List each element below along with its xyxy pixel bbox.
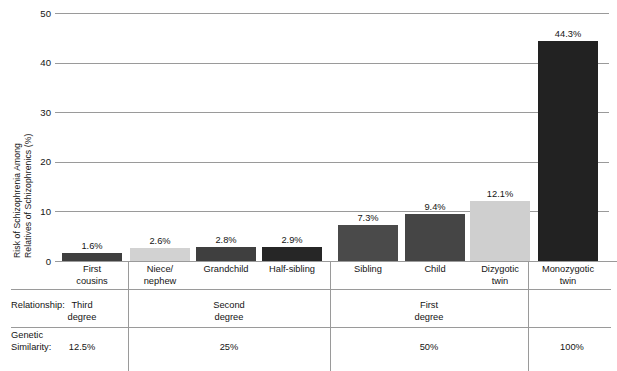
bar: 2.8%	[196, 247, 256, 261]
bar: 44.3%	[538, 41, 598, 261]
bar-value-label: 9.4%	[424, 202, 445, 212]
y-axis-label-line2: Relatives of Schizophrenics (%)	[23, 134, 35, 258]
table-horizontal-rule	[55, 261, 617, 262]
bar-value-label: 7.3%	[357, 213, 378, 223]
relationship-value: Thirddegree	[37, 300, 127, 324]
y-axis-label-line1: Risk of Schizophrenia Among	[12, 143, 24, 258]
plot-area: 01020304050 1.6%2.6%2.8%2.9%7.3%9.4%12.1…	[55, 13, 609, 261]
bar: 12.1%	[470, 201, 530, 261]
bar: 9.4%	[405, 214, 465, 261]
gridline: 40	[55, 63, 609, 64]
relationship-value: Seconddegree	[169, 300, 289, 324]
gridline: 20	[55, 162, 609, 163]
genetic-similarity-value: 12.5%	[37, 342, 127, 354]
gridline: 50	[55, 13, 609, 14]
y-axis-tick-label: 30	[40, 107, 51, 118]
y-axis-label: Risk of Schizophrenia Among Relatives of…	[0, 0, 34, 268]
bar-value-label: 44.3%	[555, 29, 581, 39]
relationship-value: Firstdegree	[364, 300, 494, 324]
y-axis-tick-label: 10	[40, 206, 51, 217]
bar-value-label: 2.8%	[215, 235, 236, 245]
y-axis-tick-label: 50	[40, 8, 51, 19]
group-divider	[330, 261, 331, 371]
bar: 2.9%	[262, 247, 322, 261]
bar-value-label: 2.9%	[281, 235, 302, 245]
table-horizontal-rule	[11, 327, 611, 328]
y-axis-tick-label: 20	[40, 156, 51, 167]
bar-value-label: 2.6%	[149, 236, 170, 246]
category-label: Half-sibling	[250, 264, 334, 276]
bar: 1.6%	[62, 253, 122, 261]
y-axis-tick-label: 40	[40, 57, 51, 68]
gridline: 30	[55, 112, 609, 113]
genetic-similarity-value: 25%	[169, 342, 289, 354]
genetic-similarity-value: 100%	[527, 342, 617, 354]
bar: 7.3%	[338, 225, 398, 261]
bar-value-label: 1.6%	[81, 241, 102, 251]
genetic-similarity-value: 50%	[364, 342, 494, 354]
category-label: Monozygotictwin	[526, 264, 610, 288]
bar-value-label: 12.1%	[487, 189, 513, 199]
schizophrenia-risk-bar-chart: Risk of Schizophrenia Among Relatives of…	[0, 0, 617, 371]
table-horizontal-rule	[11, 289, 611, 290]
bar: 2.6%	[130, 248, 190, 261]
